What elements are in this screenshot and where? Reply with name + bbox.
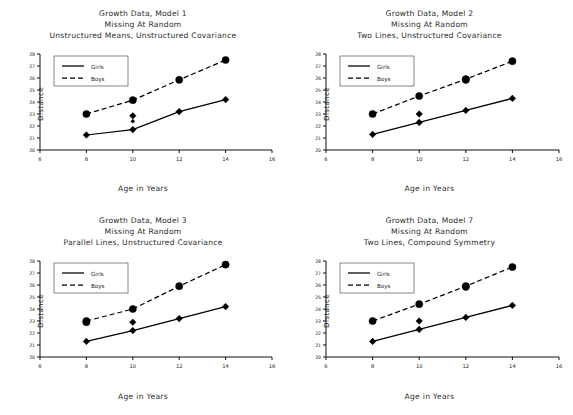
x-axis-label-model7: Age in Years (286, 392, 573, 401)
y-tick-label: 20 (29, 355, 35, 360)
data-point-boys (369, 317, 376, 324)
panel-model1: Growth Data, Model 1 Missing At Random U… (0, 0, 286, 207)
panel-title-model3: Growth Data, Model 3 (0, 215, 286, 226)
x-tick-label: 12 (462, 363, 469, 369)
data-point-boys (129, 305, 136, 312)
panel-subtitle-model7: Missing At Random (286, 226, 573, 237)
data-point-boys (176, 283, 183, 290)
y-tick-label: 22 (315, 331, 321, 336)
figure-grid: Growth Data, Model 1 Missing At Random U… (0, 0, 573, 415)
legend-label-boys: Boys (91, 283, 105, 290)
data-point-girls (416, 119, 423, 126)
y-tick-label: 24 (315, 307, 321, 312)
data-point-extra-boys (462, 76, 469, 83)
y-tick-label: 27 (29, 271, 35, 276)
plot-area-model7: 2021222324252627286810121416GirlsBoys (286, 253, 573, 381)
x-tick-label: 14 (509, 156, 516, 162)
panel-title-model2: Growth Data, Model 2 (286, 8, 573, 19)
data-point-girls (509, 302, 516, 309)
x-tick-label: 12 (176, 363, 183, 369)
data-point-boys (83, 110, 90, 117)
x-axis-label-model1: Age in Years (0, 184, 286, 193)
data-point-boys (222, 56, 229, 63)
data-point-girls (463, 107, 470, 114)
y-tick-label: 28 (29, 52, 35, 57)
data-point-extra-boys (462, 283, 469, 290)
legend-label-girls: Girls (91, 271, 104, 277)
y-tick-label: 25 (315, 88, 321, 93)
panel-subtitle2-model2: Two Lines, Unstructured Covariance (286, 30, 573, 41)
x-tick-label: 8 (85, 363, 88, 369)
y-tick-label: 20 (29, 148, 35, 153)
y-tick-label: 24 (29, 100, 35, 105)
data-point-boys (369, 110, 376, 117)
y-tick-label: 28 (315, 52, 321, 57)
x-tick-label: 6 (324, 363, 327, 369)
panel-model3: Growth Data, Model 3 Missing At Random P… (0, 207, 286, 415)
x-tick-label: 10 (416, 363, 423, 369)
y-tick-label: 28 (315, 259, 321, 264)
series-line-girls (86, 100, 225, 135)
data-point-extra-girls (131, 119, 135, 123)
y-tick-label: 24 (315, 100, 321, 105)
panel-subtitle-model1: Missing At Random (0, 19, 286, 30)
x-tick-label: 12 (176, 156, 183, 162)
x-axis-label-model2: Age in Years (286, 184, 573, 193)
data-point-boys (416, 301, 423, 308)
panel-subtitle2-model7: Two Lines, Compound Symmetry (286, 237, 573, 248)
y-tick-label: 25 (315, 295, 321, 300)
data-point-girls (222, 96, 229, 103)
legend-box (340, 56, 414, 86)
data-point-girls (83, 132, 90, 139)
data-point-girls (176, 108, 183, 115)
y-tick-label: 26 (29, 76, 35, 81)
panel-title-model7: Growth Data, Model 7 (286, 215, 573, 226)
panel-model7: Growth Data, Model 7 Missing At Random T… (286, 207, 573, 415)
y-tick-label: 28 (29, 259, 35, 264)
x-tick-label: 14 (222, 363, 229, 369)
legend-label-boys: Boys (377, 76, 391, 83)
plot-area-model1: 2021222324252627286810121416GirlsBoys (0, 46, 286, 174)
y-tick-label: 23 (29, 112, 35, 117)
panel-title-block-model2: Growth Data, Model 2 Missing At Random T… (286, 8, 573, 42)
legend-label-boys: Boys (91, 76, 105, 83)
panel-title-block-model7: Growth Data, Model 7 Missing At Random T… (286, 215, 573, 249)
y-tick-label: 24 (29, 307, 35, 312)
y-tick-label: 23 (29, 319, 35, 324)
legend-box (54, 263, 128, 293)
data-point-extra-girls (416, 111, 423, 118)
panel-subtitle-model2: Missing At Random (286, 19, 573, 30)
x-tick-label: 8 (371, 156, 374, 162)
data-point-girls (130, 126, 137, 133)
x-tick-label: 12 (462, 156, 469, 162)
legend-box (54, 56, 128, 86)
data-point-boys (509, 263, 516, 270)
x-tick-label: 16 (556, 156, 563, 162)
data-point-extra-girls (416, 318, 423, 325)
data-point-boys (222, 261, 229, 268)
data-point-extra-girls (130, 319, 137, 326)
x-tick-label: 14 (222, 156, 229, 162)
x-axis-label-model3: Age in Years (0, 392, 286, 401)
data-point-boys (509, 58, 516, 65)
y-tick-label: 26 (315, 283, 321, 288)
x-tick-label: 16 (269, 156, 276, 162)
legend-label-girls: Girls (91, 64, 104, 70)
y-tick-label: 20 (315, 355, 321, 360)
panel-subtitle2-model1: Unstructured Means, Unstructured Covaria… (0, 30, 286, 41)
panel-title-block-model1: Growth Data, Model 1 Missing At Random U… (0, 8, 286, 42)
series-line-girls (86, 307, 225, 342)
panel-subtitle-model3: Missing At Random (0, 226, 286, 237)
x-tick-label: 6 (38, 156, 41, 162)
series-line-girls (373, 98, 513, 134)
data-point-girls (369, 338, 376, 345)
y-tick-label: 20 (315, 148, 321, 153)
y-tick-label: 21 (315, 343, 321, 348)
panel-subtitle2-model3: Parallel Lines, Unstructured Covariance (0, 237, 286, 248)
y-tick-label: 23 (315, 112, 321, 117)
data-point-boys (176, 76, 183, 83)
data-point-girls (369, 131, 376, 138)
data-point-extra-boys (83, 319, 90, 326)
data-point-girls (509, 95, 516, 102)
legend-label-girls: Girls (377, 271, 390, 277)
